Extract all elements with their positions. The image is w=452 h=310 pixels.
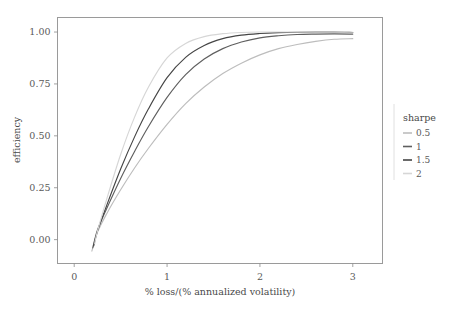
x-tick-label: 0 xyxy=(71,271,77,282)
y-axis-title: efficiency xyxy=(11,116,22,163)
chart-figure: 0123 0.000.250.500.751.00 % loss/(% annu… xyxy=(0,0,452,310)
y-tick-label: 0.75 xyxy=(29,78,50,89)
y-axis-tick-labels: 0.000.250.500.751.00 xyxy=(29,26,50,245)
y-tick-label: 1.00 xyxy=(29,26,50,37)
legend-label-2[interactable]: 2 xyxy=(416,169,422,179)
legend-label-1-5[interactable]: 1.5 xyxy=(416,155,431,165)
plot-panel xyxy=(58,18,383,264)
x-axis-title: % loss/(% annualized volatility) xyxy=(145,286,296,297)
y-tick-label: 0.00 xyxy=(29,234,50,245)
legend: sharpe 0.511.52 xyxy=(394,104,436,180)
x-tick-label: 2 xyxy=(257,271,263,282)
x-tick-label: 1 xyxy=(164,271,170,282)
x-axis-tick-labels: 0123 xyxy=(71,271,356,282)
legend-entries: 0.511.52 xyxy=(403,128,431,179)
y-axis-ticks xyxy=(54,32,58,240)
y-tick-label: 0.25 xyxy=(29,182,50,193)
x-axis-ticks xyxy=(74,264,353,268)
chart-canvas: 0123 0.000.250.500.751.00 % loss/(% annu… xyxy=(0,0,452,310)
legend-title: sharpe xyxy=(403,112,436,123)
x-tick-label: 3 xyxy=(350,271,356,282)
y-tick-label: 0.50 xyxy=(29,130,50,141)
legend-label-1[interactable]: 1 xyxy=(416,142,422,152)
legend-label-0-5[interactable]: 0.5 xyxy=(416,128,431,138)
